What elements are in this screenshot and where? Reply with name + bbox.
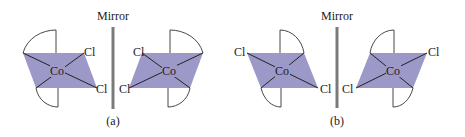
molecule-a-left: Co Cl Cl	[23, 30, 108, 107]
molecule-b-left: Cl Co Cl	[234, 30, 332, 107]
chlorine-label: Cl	[96, 82, 108, 96]
molecule-a-right: Co Cl Cl	[119, 30, 203, 107]
panel-b: Cl Co Cl Mirror (b) Cl Co Cl	[234, 9, 440, 128]
mirror-label: Mirror	[321, 9, 353, 23]
cobalt-label: Co	[386, 64, 400, 78]
chlorine-label: Cl	[428, 45, 440, 59]
bidentate-ring-lower	[393, 88, 413, 107]
cobalt-label: Co	[162, 64, 176, 78]
bidentate-ring-lower	[261, 88, 281, 107]
chlorine-label: Cl	[133, 45, 145, 59]
chlorine-label: Cl	[342, 82, 354, 96]
cobalt-label: Co	[275, 64, 289, 78]
panel-caption: (a)	[106, 114, 119, 128]
bidentate-ring-upper	[280, 30, 304, 53]
chlorine-label: Cl	[119, 82, 131, 96]
cobalt-label: Co	[50, 64, 64, 78]
bidentate-ring-lower	[36, 88, 58, 107]
panel-a: Co Cl Cl Mirror (a) Co Cl Cl	[23, 9, 203, 128]
chlorine-label: Cl	[320, 82, 332, 96]
molecule-b-right: Cl Co Cl	[342, 30, 440, 107]
chlorine-label: Cl	[234, 45, 246, 59]
bidentate-ring-lower	[168, 88, 190, 107]
panel-caption: (b)	[330, 114, 344, 128]
chirality-diagram: Co Cl Cl Mirror (a) Co Cl Cl	[0, 0, 465, 137]
bidentate-ring-upper	[170, 30, 203, 53]
bidentate-ring-upper	[23, 30, 56, 53]
bidentate-ring-upper	[370, 30, 394, 53]
chlorine-label: Cl	[84, 45, 96, 59]
mirror-label: Mirror	[97, 9, 129, 23]
